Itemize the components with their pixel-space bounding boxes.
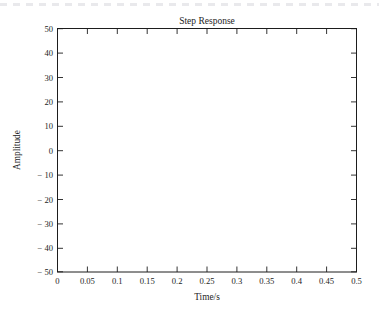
y-tick-label: − 10	[37, 170, 53, 180]
y-tick-label: 30	[44, 73, 53, 83]
x-tick-6: 0.3	[232, 29, 243, 287]
x-tick-9: 0.45	[319, 29, 334, 287]
chart-page: Step Response Amplitude Time/s 50 40 30 …	[0, 0, 379, 318]
y-tick-2: 30	[44, 73, 356, 83]
x-tick-label: 0.1	[112, 276, 123, 286]
chart-title: Step Response	[179, 16, 235, 26]
y-tick-label: 50	[44, 24, 53, 34]
y-tick-7: − 20	[37, 195, 356, 205]
x-tick-label: 0.4	[291, 276, 302, 286]
y-tick-label: − 20	[37, 195, 53, 205]
x-tick-4: 0.2	[172, 29, 183, 287]
y-axis-ticks: 50 40 30 20 10 0 − 1	[37, 24, 356, 277]
x-tick-label: 0.35	[259, 276, 274, 286]
x-tick-label: 0.2	[172, 276, 183, 286]
y-tick-4: 10	[44, 121, 356, 131]
x-tick-label: 0.3	[232, 276, 243, 286]
y-tick-label: − 50	[37, 267, 53, 277]
y-tick-1: 40	[44, 48, 356, 58]
x-tick-8: 0.4	[291, 29, 302, 287]
y-tick-8: − 30	[37, 219, 356, 229]
y-tick-3: 20	[44, 97, 356, 107]
y-axis-title: Amplitude	[12, 130, 22, 170]
step-response-chart: Step Response Amplitude Time/s 50 40 30 …	[0, 0, 379, 318]
x-tick-label: 0.25	[199, 276, 214, 286]
y-tick-label: − 30	[37, 219, 53, 229]
x-axis-title: Time/s	[194, 292, 220, 302]
plot-frame	[58, 29, 357, 273]
x-tick-7: 0.35	[259, 29, 274, 287]
x-tick-label: 0.5	[351, 276, 362, 286]
y-tick-label: 10	[44, 121, 53, 131]
x-tick-label: 0.05	[80, 276, 95, 286]
x-tick-5: 0.25	[199, 29, 214, 287]
x-tick-2: 0.1	[112, 29, 123, 287]
y-tick-label: 40	[44, 48, 53, 58]
x-tick-label: 0	[55, 276, 59, 286]
x-tick-label: 0.15	[140, 276, 155, 286]
x-axis-ticks: 0 0.05 0.1 0.15 0.2 0.25	[55, 29, 362, 287]
y-tick-9: − 40	[37, 243, 356, 253]
x-tick-3: 0.15	[140, 29, 155, 287]
y-tick-label: 0	[49, 146, 53, 156]
y-tick-6: − 10	[37, 170, 356, 180]
x-tick-1: 0.05	[80, 29, 95, 287]
y-tick-label: 20	[44, 97, 53, 107]
y-tick-5: 0	[49, 146, 357, 156]
y-tick-label: − 40	[37, 243, 53, 253]
plot-area: Step Response Amplitude Time/s 50 40 30 …	[0, 0, 379, 318]
x-tick-label: 0.45	[319, 276, 334, 286]
